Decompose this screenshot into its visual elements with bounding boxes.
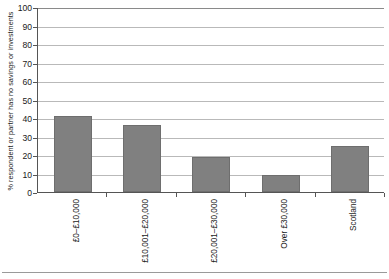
bar bbox=[54, 116, 92, 192]
bar-chart: % respondent or partner has no savings o… bbox=[0, 0, 389, 279]
bar-slot bbox=[177, 8, 246, 192]
plot-area bbox=[37, 8, 384, 193]
y-tick-label-50: 50 bbox=[8, 97, 32, 106]
y-tick-label-90: 90 bbox=[8, 23, 32, 32]
bar bbox=[331, 146, 369, 192]
y-tick-mark-90 bbox=[33, 27, 37, 28]
bars-layer bbox=[38, 8, 384, 192]
y-tick-label-80: 80 bbox=[8, 41, 32, 50]
y-tick-mark-80 bbox=[33, 45, 37, 46]
y-tick-label-70: 70 bbox=[8, 60, 32, 69]
x-axis-label: £20,001–£30,000 bbox=[210, 199, 219, 263]
y-tick-label-100: 100 bbox=[8, 4, 32, 13]
y-tick-mark-60 bbox=[33, 82, 37, 83]
bar bbox=[192, 157, 230, 192]
y-tick-mark-10 bbox=[33, 175, 37, 176]
y-tick-mark-40 bbox=[33, 119, 37, 120]
page-divider-rule bbox=[2, 272, 387, 273]
y-tick-label-20: 20 bbox=[8, 152, 32, 161]
x-label-slot: £0–£10,000 bbox=[37, 193, 106, 279]
y-tick-label-60: 60 bbox=[8, 78, 32, 87]
x-label-slot: £20,001–£30,000 bbox=[176, 193, 245, 279]
y-tick-mark-30 bbox=[33, 138, 37, 139]
x-axis-label: £10,001–£20,000 bbox=[141, 199, 150, 263]
bar-slot bbox=[107, 8, 176, 192]
y-tick-mark-20 bbox=[33, 156, 37, 157]
y-tick-label-0: 0 bbox=[8, 189, 32, 198]
y-tick-mark-50 bbox=[33, 101, 37, 102]
bar bbox=[123, 125, 161, 192]
bar bbox=[262, 175, 300, 192]
x-axis-label: Scotland bbox=[349, 199, 358, 231]
x-label-slot: £10,001–£20,000 bbox=[106, 193, 175, 279]
x-axis-label: £0–£10,000 bbox=[72, 199, 81, 242]
y-tick-mark-70 bbox=[33, 64, 37, 65]
bar-slot bbox=[316, 8, 385, 192]
bar-slot bbox=[246, 8, 315, 192]
bar-slot bbox=[38, 8, 107, 192]
y-tick-label-40: 40 bbox=[8, 115, 32, 124]
x-axis-labels: £0–£10,000£10,001–£20,000£20,001–£30,000… bbox=[37, 193, 384, 279]
x-axis-label: Over £30,000 bbox=[280, 199, 289, 249]
x-tick-mark bbox=[384, 193, 385, 197]
x-label-slot: Over £30,000 bbox=[245, 193, 314, 279]
y-tick-label-30: 30 bbox=[8, 134, 32, 143]
y-tick-mark-100 bbox=[33, 8, 37, 9]
x-label-slot: Scotland bbox=[315, 193, 384, 279]
y-tick-label-10: 10 bbox=[8, 171, 32, 180]
